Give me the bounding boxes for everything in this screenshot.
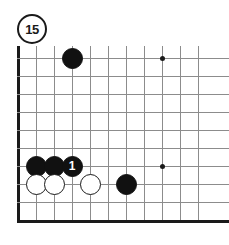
grid-line-horizontal <box>17 112 229 113</box>
grid-line-vertical <box>162 46 163 220</box>
grid-line-horizontal <box>17 58 229 59</box>
board-edge-bottom <box>17 220 229 223</box>
board-edge-left <box>17 46 20 223</box>
stone-black-numbered[interactable]: 1 <box>62 156 83 177</box>
grid-line-horizontal <box>17 202 229 203</box>
stone-black[interactable] <box>116 174 137 195</box>
stone-black[interactable] <box>62 48 83 69</box>
grid-line-horizontal <box>17 130 229 131</box>
star-point <box>160 164 165 169</box>
stone-white[interactable] <box>44 174 65 195</box>
star-point <box>160 56 165 61</box>
stone-move-number: 1 <box>69 160 76 172</box>
grid-line-horizontal <box>17 148 229 149</box>
grid-line-vertical <box>144 46 145 220</box>
grid-line-vertical <box>180 46 181 220</box>
grid-line-horizontal <box>17 76 229 77</box>
grid-line-vertical <box>198 46 199 220</box>
grid-line-vertical <box>108 46 109 220</box>
stone-white[interactable] <box>80 174 101 195</box>
go-diagram-root: 15 1 <box>0 0 229 245</box>
grid-line-vertical <box>72 46 73 220</box>
go-board[interactable]: 1 <box>0 0 229 245</box>
grid-line-horizontal <box>17 94 229 95</box>
